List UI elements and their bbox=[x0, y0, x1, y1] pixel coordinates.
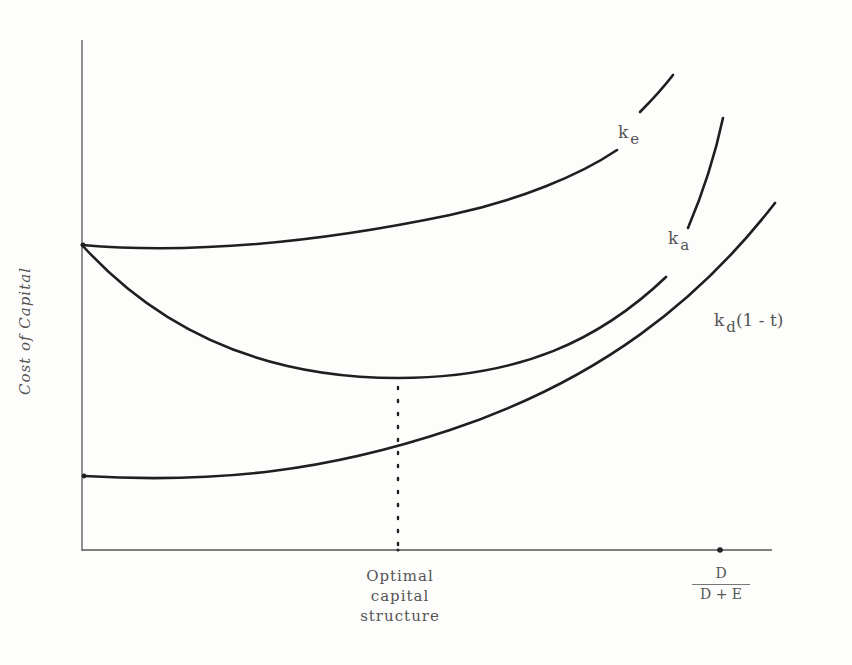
ka-ke-start-dot bbox=[81, 243, 86, 248]
y-axis-label: Cost of Capital bbox=[16, 267, 34, 395]
ka-curve-upper bbox=[688, 118, 723, 228]
kd-label-sub: d bbox=[726, 318, 736, 336]
ka-curve bbox=[82, 245, 666, 378]
kd-label-suffix: (1 - t) bbox=[736, 310, 783, 330]
ka-label-main: k bbox=[668, 228, 678, 248]
ke-curve bbox=[82, 150, 617, 248]
optimal-tick bbox=[397, 549, 400, 552]
x-axis-fraction-label: D D + E bbox=[692, 566, 750, 602]
fraction-denominator: D + E bbox=[692, 587, 750, 602]
kd-label: kd(1 - t) bbox=[714, 310, 783, 336]
ke-label-main: k bbox=[618, 122, 628, 142]
fraction-bar bbox=[692, 584, 750, 585]
optimal-line-3: structure bbox=[345, 606, 455, 626]
optimal-line-1: Optimal bbox=[345, 566, 455, 586]
optimal-capital-structure-label: Optimal capital structure bbox=[345, 566, 455, 626]
ka-label-sub: a bbox=[680, 236, 689, 254]
kd-start-dot bbox=[82, 474, 87, 479]
optimal-line-2: capital bbox=[345, 586, 455, 606]
kd-label-main: k bbox=[714, 310, 724, 330]
fraction-numerator: D bbox=[692, 566, 750, 581]
ke-curve-upper bbox=[640, 75, 673, 112]
ka-label: ka bbox=[668, 228, 689, 254]
ke-label: ke bbox=[618, 122, 639, 148]
ke-label-sub: e bbox=[630, 130, 639, 148]
x-axis-marker bbox=[717, 547, 723, 553]
